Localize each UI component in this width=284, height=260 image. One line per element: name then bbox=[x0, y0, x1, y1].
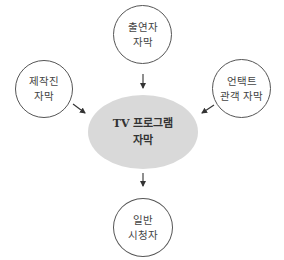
node-label-line1: 언택트 bbox=[227, 74, 257, 89]
node-label-line1: 제작진 bbox=[29, 74, 59, 89]
node-production-staff-subtitles: 제작진 자막 bbox=[15, 60, 73, 118]
node-label-line2: 시청자 bbox=[128, 228, 158, 243]
hub-label-line2: 자막 bbox=[133, 132, 153, 149]
node-label-line1: 일반 bbox=[133, 213, 153, 228]
arrow-staff-to-tv bbox=[73, 104, 85, 113]
subtitle-flow-diagram: 출연자 자막 제작진 자막 언택트 관객 자막 TV 프로그램 자막 일반 시청… bbox=[0, 0, 284, 260]
node-label-line2: 자막 bbox=[34, 89, 54, 104]
node-label-line2: 관객 자막 bbox=[220, 89, 263, 104]
node-label-line2: 자막 bbox=[133, 35, 153, 50]
hub-tv-program-subtitles: TV 프로그램 자막 bbox=[88, 95, 198, 169]
node-label-line1: 출연자 bbox=[128, 20, 158, 35]
node-performer-subtitles: 출연자 자막 bbox=[113, 5, 172, 64]
arrow-untact-to-tv bbox=[202, 105, 214, 113]
hub-label-line1: TV 프로그램 bbox=[113, 115, 174, 132]
node-untact-audience-subtitles: 언택트 관객 자막 bbox=[212, 59, 271, 118]
node-general-viewers: 일반 시청자 bbox=[113, 198, 173, 257]
